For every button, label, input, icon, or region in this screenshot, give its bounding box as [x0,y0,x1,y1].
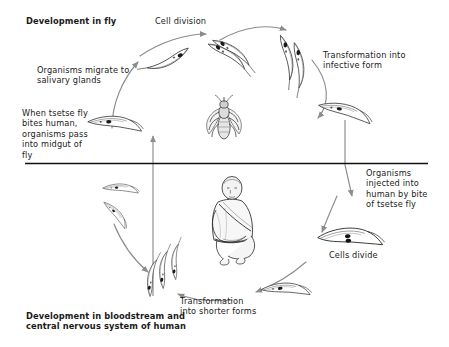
life-cycle-diagram: Development in fly Cell division Transfo… [0,0,449,347]
label-transformation-into-infective-form: Transformation into infective form [323,50,406,71]
label-transformation-into-shorter-forms: Transformation into shorter forms [180,296,256,317]
label-development-in-fly: Development in fly [26,16,116,26]
label-cell-division: Cell division [155,16,206,26]
label-organisms-injected-into-human: Organisms injected into human by bite of… [366,168,427,210]
label-when-tsetse-fly-bites-human: When tsetse fly bites human, organisms p… [22,108,88,160]
tsetse-fly-illustration [207,95,242,139]
label-organisms-migrate-to-salivary-glands: Organisms migrate to salivary glands [37,65,129,86]
label-cells-divide: Cells divide [329,250,378,260]
label-development-in-bloodstream: Development in bloodstream and central n… [26,311,186,332]
seated-human-illustration [212,177,254,266]
